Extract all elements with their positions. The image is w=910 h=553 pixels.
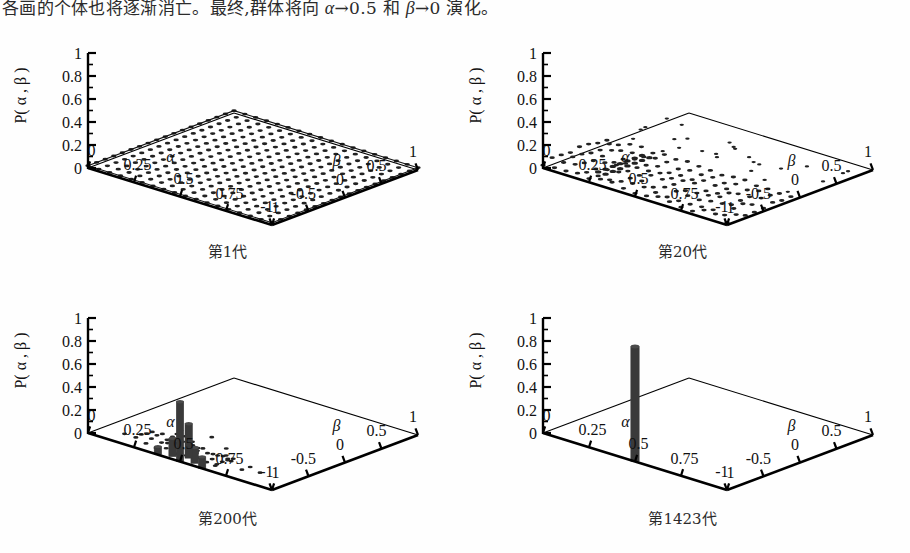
surface-marker <box>632 161 638 164</box>
paragraph-mid1: →0.5 和 <box>335 0 406 18</box>
surface-marker <box>240 136 245 139</box>
surface-marker <box>280 195 285 198</box>
surface-marker <box>182 135 187 138</box>
surface-marker <box>710 176 715 179</box>
surface-marker <box>204 172 209 175</box>
axis-beta-title: β <box>332 417 341 435</box>
surface-marker <box>264 179 269 182</box>
surface-marker <box>137 174 142 177</box>
symbol-alpha: α <box>325 0 335 18</box>
surface-marker <box>148 148 153 151</box>
surface-marker <box>355 159 360 162</box>
surface-marker <box>202 195 207 198</box>
surface-marker <box>167 178 172 181</box>
surface-marker <box>165 171 170 174</box>
surface-marker <box>204 142 209 145</box>
surface-marker <box>568 151 573 154</box>
surface-marker <box>279 165 284 168</box>
surface-marker <box>687 169 692 172</box>
surface-marker <box>672 138 676 140</box>
axis-beta-title: β <box>332 152 341 170</box>
surface-marker <box>351 176 356 179</box>
surface-marker <box>253 146 258 149</box>
surface-marker <box>638 128 642 130</box>
axis-beta-tick-label: -0.5 <box>746 450 771 467</box>
surface-marker <box>731 176 736 179</box>
surface-marker <box>270 139 275 142</box>
surface-marker <box>724 188 729 191</box>
surface-marker <box>630 151 635 154</box>
surface-marker <box>298 136 303 139</box>
surface-marker <box>284 149 289 152</box>
paragraph-mid2: →0 演化。 <box>415 0 498 18</box>
surface-marker <box>199 129 204 132</box>
surface-marker <box>336 189 341 192</box>
surface-marker <box>264 149 269 152</box>
axis-alpha-tick-label: 0.25 <box>579 156 607 173</box>
surface-marker <box>219 129 224 132</box>
surface-marker <box>224 201 229 204</box>
surface-marker <box>552 166 557 169</box>
surface-marker <box>195 175 200 178</box>
surface-marker <box>164 447 169 450</box>
surface-marker <box>217 152 222 155</box>
surface-marker <box>396 166 401 169</box>
paragraph-prefix: 各画的个体也将逐渐消亡。最终,群体将向 <box>2 0 325 18</box>
surface-marker <box>749 170 753 172</box>
surface-marker <box>159 181 164 184</box>
surface-marker <box>216 122 221 125</box>
surface-marker <box>266 156 271 159</box>
axis-z-tick-label: 0 <box>529 160 537 177</box>
surface-marker <box>624 164 630 167</box>
surface-marker <box>139 151 144 154</box>
surface-marker <box>706 194 711 197</box>
axis-alpha-tick-label: 0.5 <box>174 435 194 452</box>
surface-marker <box>278 188 283 191</box>
surface-marker <box>195 145 200 148</box>
surface-marker <box>643 126 647 128</box>
axis-z-tick-label: 1 <box>74 310 82 327</box>
axis-alpha-title: α <box>621 148 630 165</box>
surface-marker <box>786 191 790 193</box>
surface-marker <box>252 198 257 201</box>
surface-marker <box>275 182 280 185</box>
surface-marker <box>664 161 669 164</box>
surface-marker <box>653 191 658 194</box>
axis-beta-tick-label: -1 <box>715 198 728 215</box>
surface-marker <box>219 159 224 162</box>
surface-marker <box>234 116 239 119</box>
bar-cap <box>198 455 206 458</box>
surface-marker <box>277 159 282 162</box>
axis-z-tick-label: 0.2 <box>62 402 82 419</box>
surface-marker <box>344 156 349 159</box>
surface-marker <box>570 156 575 159</box>
surface-marker <box>610 165 616 168</box>
surface-marker <box>277 129 282 132</box>
surface-marker <box>205 452 210 455</box>
surface-marker <box>353 182 358 185</box>
surface-marker <box>319 195 324 198</box>
surface-marker <box>273 175 278 178</box>
surface-marker <box>749 203 754 206</box>
surface-marker <box>292 175 297 178</box>
axis-beta-tick-label: -1 <box>715 463 728 480</box>
surface-marker <box>234 175 239 178</box>
surface-marker <box>703 189 708 192</box>
bar-cap <box>154 445 162 448</box>
surface-marker <box>561 161 566 164</box>
surface-marker <box>595 142 600 145</box>
surface-marker <box>708 200 713 203</box>
surface-marker <box>618 180 623 183</box>
surface-marker <box>255 123 260 126</box>
surface-marker <box>193 168 198 171</box>
surface-marker <box>690 210 695 213</box>
chart-panel-generation-1423: 00.250.50.751α-1-0.500.51β10.80.60.40.20… <box>455 287 910 552</box>
surface-marker <box>644 195 649 198</box>
surface-marker <box>165 142 170 145</box>
surface-marker <box>323 179 328 182</box>
surface-marker <box>189 155 194 158</box>
axis-alpha-title: α <box>621 413 630 430</box>
axis-z-tick-label: 0.8 <box>517 68 537 85</box>
surface-marker <box>143 442 148 445</box>
surface-marker <box>727 141 731 143</box>
